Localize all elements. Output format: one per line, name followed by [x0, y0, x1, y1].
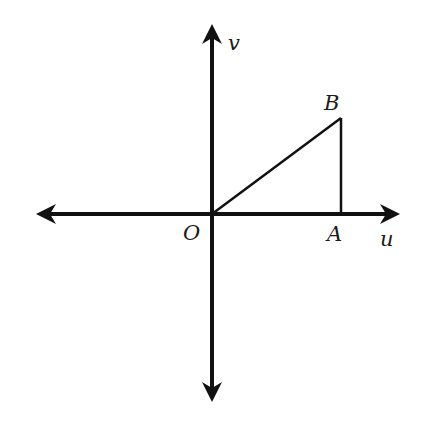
u-axis-label: u: [380, 227, 394, 251]
point-A-label: A: [325, 222, 342, 246]
v-axis-label: v: [228, 31, 240, 55]
point-B-label: B: [323, 91, 339, 115]
coordinate-diagram: v u O A B: [0, 0, 422, 424]
origin-label: O: [183, 221, 200, 245]
segment-OB: [212, 118, 341, 214]
